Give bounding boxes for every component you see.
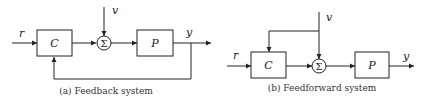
caption-feedback: (a) Feedback system	[59, 86, 153, 96]
controller-label: C	[264, 59, 273, 72]
output-label: y	[402, 50, 410, 63]
reference-label: r	[233, 49, 239, 62]
plant-label: P	[367, 59, 376, 72]
controller-label: C	[50, 37, 59, 50]
block-diagrams: r C v Σ P y (a) Feedback system r C v Σ …	[0, 0, 424, 105]
feedback-diagram: r C v Σ P y (a) Feedback system	[12, 4, 211, 96]
reference-label: r	[19, 27, 25, 40]
summing-symbol: Σ	[100, 38, 107, 49]
summing-symbol: Σ	[315, 61, 322, 72]
feedforward-path	[269, 31, 319, 52]
output-label: y	[185, 26, 193, 39]
caption-feedforward: (b) Feedforward system	[268, 83, 377, 93]
disturbance-label: v	[326, 11, 333, 24]
feedforward-diagram: r C v Σ P y (b) Feedforward system	[227, 11, 414, 93]
disturbance-label: v	[112, 4, 119, 17]
plant-label: P	[150, 37, 159, 50]
